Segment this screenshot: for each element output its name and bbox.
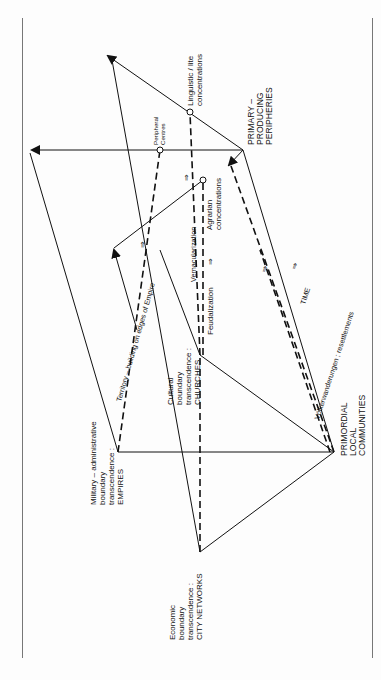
node-peripheral-centres <box>157 147 163 153</box>
edge-primary-agrarian-short <box>229 150 243 165</box>
label-agrarian-1: Agrarian <box>205 200 214 230</box>
node-linguistic <box>187 109 193 115</box>
svg-text:Cultural boundary: Cultural boundary transcendence : CHURCH… <box>166 346 202 405</box>
historical-development-diagram: Military – administrative boundary trans… <box>0 0 381 680</box>
svg-text:Peripheral Centres: Peripheral Centres <box>152 115 166 145</box>
label-vernacularization: Vernacularization <box>189 227 198 282</box>
label-primordial-3: COMMUNITIES <box>357 395 367 456</box>
label-linguistic-1: Linguistic / lite <box>186 55 195 106</box>
dashed-volker-2 <box>260 250 330 452</box>
label-linguistic-2: concentrations <box>195 54 204 106</box>
svg-text:PRIMORDIAL LOCAL C: PRIMORDIAL LOCAL COMMUNITIES <box>339 395 367 456</box>
label-city-3: transcendence : <box>186 583 195 640</box>
edge-city-primordial <box>200 452 334 552</box>
svg-text:PRIMARY – PRODUCING: PRIMARY – PRODUCING PERIPHERIES <box>246 87 274 145</box>
label-churches-3: transcendence : <box>184 348 193 405</box>
label-churches-4: CHURCHES <box>193 360 202 405</box>
label-primary-3: PERIPHERIES <box>264 87 274 145</box>
label-territory: Territory – building on edges of Empire <box>114 282 157 403</box>
svg-text:Agrarian concentrations: Agrarian concentrations <box>205 178 223 230</box>
arrow-icon-time: ⇒ <box>289 261 300 270</box>
label-peripheral-2: Centres <box>159 123 166 145</box>
label-city-1: Economic <box>168 605 177 640</box>
label-churches-1: Cultural <box>166 377 175 405</box>
edge-territory-arrow <box>114 250 137 330</box>
svg-text:Economic boundary: Economic boundary transcendence : CITY N… <box>168 573 204 640</box>
arrow-icon-territory: ⇒ <box>138 241 147 248</box>
node-agrarian <box>200 177 206 183</box>
label-city-4: CITY NETWORKS <box>195 573 204 640</box>
edge-primary-linguistic-top <box>108 56 243 150</box>
svg-text:Linguistic / lite concen: Linguistic / lite concentrations <box>186 54 204 106</box>
label-feudalization: Feudalization <box>206 287 215 335</box>
label-city-2: boundary <box>177 607 186 640</box>
label-agrarian-2: concentrations <box>214 178 223 230</box>
dashed-empires-peripheral <box>118 150 160 452</box>
label-churches-2: boundary <box>175 372 184 405</box>
edge-churches-primordial <box>200 355 334 452</box>
label-volkerwanderungen: Völkerwanderungen ; resettlements <box>312 310 356 421</box>
label-time: TIME <box>298 286 312 305</box>
svg-text:Military – administrative: Military – administrative boundary trans… <box>89 419 125 505</box>
label-empires-1: Military – administrative <box>89 421 98 505</box>
arrow-icon-feudalization: ⇒ <box>206 258 215 265</box>
edge-empires-up <box>30 153 118 452</box>
label-peripheral-1: Peripheral <box>152 117 159 145</box>
arrow-icon-agrarian: ⇒ <box>182 174 191 181</box>
label-empires-2: boundary <box>98 472 107 505</box>
label-empires-4: EMPIRES <box>116 469 125 505</box>
label-empires-3: transcendence : <box>107 448 116 505</box>
